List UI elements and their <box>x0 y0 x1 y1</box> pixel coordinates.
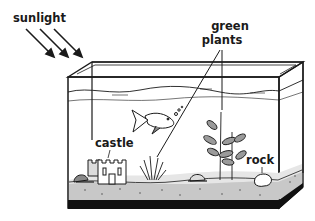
sunlight-label: sunlight <box>13 11 67 25</box>
sunlight-arrows-icon <box>26 29 82 57</box>
green-plants-label-line2: plants <box>202 33 243 47</box>
rock-label: rock <box>246 153 274 167</box>
water-surface <box>68 80 303 101</box>
aquarium-diagram: sunlight green plants <box>0 0 315 221</box>
tall-green-plant-icon <box>202 112 247 180</box>
fish-icon <box>132 106 183 134</box>
green-plants-label-line1: green <box>211 19 249 33</box>
castle-pointer-line <box>108 150 110 158</box>
castle-label: castle <box>95 136 134 150</box>
rock-icon <box>254 174 271 186</box>
